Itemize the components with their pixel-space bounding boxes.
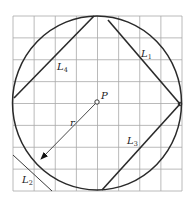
radius-arrow <box>41 104 96 160</box>
label-p: P <box>100 90 108 101</box>
label-l3-sub: 3 <box>134 140 138 148</box>
label-l1-sub: 1 <box>148 53 152 61</box>
label-l2: L2 <box>21 174 33 187</box>
label-l2-sub: 2 <box>29 179 33 187</box>
label-l4-sub: 4 <box>64 66 68 74</box>
center-point-p <box>95 100 99 104</box>
label-l4: L4 <box>56 61 68 74</box>
circle-lines-diagram: P r L1 L4 L3 L2 <box>0 0 196 204</box>
label-r: r <box>70 117 76 128</box>
label-l3: L3 <box>126 135 138 148</box>
